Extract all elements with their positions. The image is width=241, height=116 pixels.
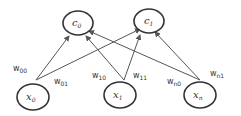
weight-label-w11: w11 xyxy=(133,71,147,81)
weight-label-w10: w10 xyxy=(92,71,106,81)
output-node-c1: c1 xyxy=(134,9,164,33)
network-diagram: c0 c1 x0 x1 xn w00 w01 w10 w11 wn0 wn1 xyxy=(0,0,241,116)
edges xyxy=(36,29,200,80)
edge-x0-c0 xyxy=(36,36,69,80)
weight-label-w01: w01 xyxy=(54,77,68,87)
input-node-x1: x1 xyxy=(104,82,136,108)
edge-xn-c0 xyxy=(89,31,200,80)
input-node-xn: xn xyxy=(184,82,216,108)
edge-xn-c1 xyxy=(155,32,200,80)
weight-label-w00: w00 xyxy=(13,64,27,74)
edge-x0-c1 xyxy=(36,29,140,80)
weight-label-wn0: wn0 xyxy=(167,77,181,87)
output-node-c0: c0 xyxy=(63,11,93,35)
weight-label-wn1: wn1 xyxy=(210,69,224,79)
input-node-x0: x0 xyxy=(17,84,49,110)
